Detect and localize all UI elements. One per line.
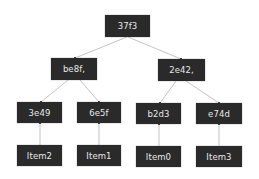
edge-right-h2 [160,81,176,103]
hash-node-left: be8f, [51,58,97,80]
edge-root-left [75,37,127,58]
leaf-node-item0: Item0 [136,146,181,167]
root-node: 37f3 [105,15,150,37]
leaf-node-item3: Item3 [196,146,242,167]
edge-left-h0 [41,80,68,102]
edge-left-h1 [80,80,99,102]
leaf-node-item2: Item2 [17,145,62,166]
hash-node-6e5f: 6e5f [77,102,121,123]
edge-root-right [128,37,181,59]
hash-node-e74d: e74d [196,103,242,124]
hash-node-right: 2e42, [158,59,205,81]
hash-node-3e49: 3e49 [17,102,62,123]
hash-node-b2d3: b2d3 [136,103,181,124]
edge-right-h3 [186,81,219,103]
leaf-node-item1: Item1 [77,145,121,166]
